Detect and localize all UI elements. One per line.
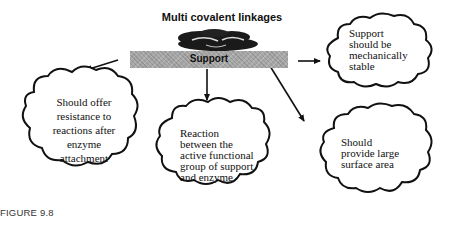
support-bar: Support [130, 51, 288, 68]
cloud-line: Should offer [36, 95, 132, 109]
cloud-mechanically-stable: Support should be mechanically stable [349, 28, 408, 72]
figure-caption-label: FIGURE 9.8 [0, 207, 54, 218]
support-label: Support [130, 53, 288, 64]
cloud-line: reactions after [36, 123, 132, 137]
diagram-title: Multi covalent linkages [140, 11, 304, 23]
diagram-canvas: Multi covalent linkages Support Support … [0, 0, 454, 229]
cloud-line: and enzyme [180, 172, 254, 183]
arrow-down-right [270, 66, 304, 121]
cloud-line: attachment [36, 151, 132, 165]
cloud-reaction: Reaction between the active functional g… [180, 128, 254, 183]
cloud-surface-area: Should provide large surface area [341, 137, 399, 170]
enzyme-blob-icon [178, 29, 258, 51]
cloud-line: surface area [341, 159, 399, 170]
cloud-line: enzyme [36, 137, 132, 151]
cloud-resistance: Should offer resistance to reactions aft… [36, 95, 132, 165]
cloud-line: resistance to [36, 109, 132, 123]
cloud-line: stable [349, 61, 408, 72]
